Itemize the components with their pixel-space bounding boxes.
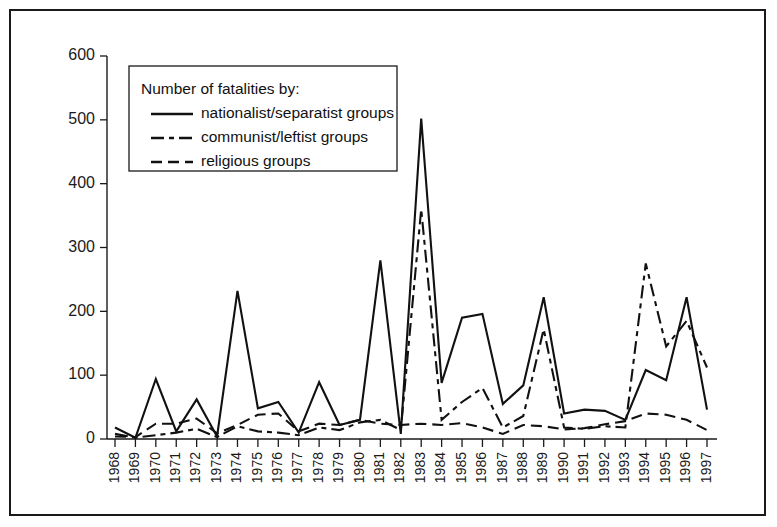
x-tick-label: 1984 (432, 452, 448, 483)
legend-label-3: religious groups (201, 152, 311, 169)
y-tick-label: 300 (68, 238, 95, 255)
x-tick-label: 1981 (371, 452, 387, 483)
x-tick-label: 1970 (147, 452, 163, 483)
x-tick-label: 1977 (289, 452, 305, 483)
legend-label-2: communist/leftist groups (201, 128, 368, 145)
x-tick-label: 1989 (534, 452, 550, 483)
x-tick-label: 1982 (391, 452, 407, 483)
chart-legend: Number of fatalities by:nationalist/sepa… (129, 66, 397, 171)
x-tick-label: 1993 (616, 452, 632, 483)
x-tick-label: 1978 (310, 452, 326, 483)
x-tick-label: 1988 (514, 452, 530, 483)
x-tick-label: 1976 (269, 452, 285, 483)
figure-border: 0100200300400500600 19681969197019711972… (9, 9, 766, 516)
series-line-communist-leftist-groups (115, 209, 707, 438)
line-chart: 0100200300400500600 19681969197019711972… (11, 11, 768, 518)
x-tick-label: 1994 (636, 452, 652, 483)
legend-label-1: nationalist/separatist groups (201, 104, 394, 121)
x-tick-label: 1995 (657, 452, 673, 483)
x-tick-label: 1992 (596, 452, 612, 483)
x-tick-label: 1983 (412, 452, 428, 483)
x-tick-label: 1980 (351, 452, 367, 483)
x-tick-label: 1971 (167, 452, 183, 483)
x-tick-label: 1986 (473, 452, 489, 483)
x-tick-label: 1973 (208, 452, 224, 483)
x-tick-label: 1975 (249, 452, 265, 483)
legend-title: Number of fatalities by: (141, 80, 300, 97)
chart-plot-area: 0100200300400500600 19681969197019711972… (11, 11, 768, 518)
x-tick-label: 1996 (677, 452, 693, 483)
y-tick-label: 500 (68, 110, 95, 127)
x-tick-label: 1969 (126, 452, 142, 483)
x-tick-label: 1974 (228, 452, 244, 483)
y-tick-label: 600 (68, 46, 95, 63)
x-tick-label: 1991 (575, 452, 591, 483)
x-tick-label: 1985 (453, 452, 469, 483)
y-tick-label: 100 (68, 365, 95, 382)
x-tick-label: 1968 (106, 452, 122, 483)
x-tick-label: 1990 (555, 452, 571, 483)
x-tick-label: 1972 (187, 452, 203, 483)
y-tick-label: 200 (68, 302, 95, 319)
y-axis: 0100200300400500600 (68, 46, 107, 446)
y-tick-label: 0 (86, 429, 95, 446)
x-tick-label: 1979 (330, 452, 346, 483)
x-tick-label: 1987 (494, 452, 510, 483)
y-tick-label: 400 (68, 174, 95, 191)
x-axis: 1968196919701971197219731974197519761977… (106, 439, 717, 483)
x-tick-label: 1997 (698, 452, 714, 483)
